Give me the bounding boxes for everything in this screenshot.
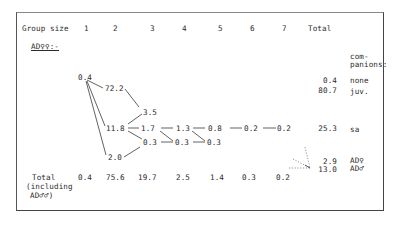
row-total-sa: 25.3 — [300, 124, 337, 133]
node-size5-b: 0.3 — [207, 138, 221, 147]
column-total-label-line3: AD♂♂) — [30, 191, 53, 200]
node-size6-a: 0.2 — [244, 124, 258, 133]
node-size3-b: 1.7 — [141, 124, 155, 133]
row-total-juv: 80.7 — [300, 86, 337, 95]
companions-adm: AD♂ — [350, 164, 364, 173]
companions-none: none — [350, 76, 369, 85]
node-size2-juv: 72.2 — [105, 84, 124, 93]
companions-header-line2: panions: — [350, 60, 387, 69]
total-header: Total — [308, 24, 331, 33]
row-total-none: 0.4 — [300, 76, 337, 85]
node-size2-ad: 2.0 — [108, 153, 122, 162]
node-size5-a: 0.8 — [208, 124, 222, 133]
group-size-label: Group size — [22, 24, 69, 33]
column-total-label-line2: (including — [26, 182, 73, 191]
group-size-4: 4 — [182, 24, 187, 33]
group-size-3: 3 — [150, 24, 155, 33]
group-size-7: 7 — [282, 24, 287, 33]
node-size1: 0.4 — [78, 73, 92, 82]
column-total-3: 19.7 — [138, 173, 157, 182]
companions-juv: juv. — [350, 87, 369, 96]
node-size7-a: 0.2 — [277, 124, 291, 133]
row-total-adm: 13.0 — [300, 165, 337, 174]
node-size3-a: 3.5 — [143, 108, 157, 117]
node-size2-sa: 11.8 — [106, 124, 125, 133]
node-size3-c: 0.3 — [143, 138, 157, 147]
group-size-1: 1 — [84, 24, 89, 33]
column-total-label: Total — [32, 173, 55, 182]
group-size-5: 5 — [218, 24, 223, 33]
column-total-6: 0.3 — [242, 173, 256, 182]
group-size-2: 2 — [113, 24, 118, 33]
node-size4-b: 0.3 — [175, 138, 189, 147]
column-total-7: 0.2 — [276, 173, 290, 182]
column-total-5: 1.4 — [210, 173, 224, 182]
column-total-4: 2.5 — [176, 173, 190, 182]
column-total-2: 75.6 — [106, 173, 125, 182]
section-label-adult-females: AD♀♀:- — [31, 42, 59, 51]
group-size-6: 6 — [250, 24, 255, 33]
companions-sa: sa — [350, 125, 359, 134]
column-total-1: 0.4 — [78, 173, 92, 182]
node-size4-a: 1.3 — [176, 124, 190, 133]
